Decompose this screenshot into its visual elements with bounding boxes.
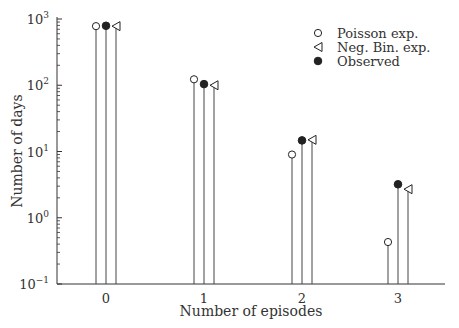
legend: Poisson exp.Neg. Bin. exp.Observed (314, 26, 430, 69)
y-tick-label: 101 (27, 143, 49, 160)
filled-circle-marker (298, 137, 306, 145)
legend-label: Observed (337, 54, 400, 69)
legend-label: Poisson exp. (337, 26, 418, 41)
y-tick-label: 10−1 (19, 275, 49, 292)
legend-label: Neg. Bin. exp. (337, 40, 430, 55)
open-circle-marker (314, 29, 321, 36)
x-tick-label: 3 (394, 291, 402, 306)
y-axis-label: Number of days (9, 94, 25, 207)
y-tick-label: 102 (27, 76, 49, 93)
open-circle-marker (190, 76, 197, 83)
open-circle-marker (92, 23, 99, 30)
x-axis-label: Number of episodes (180, 303, 323, 319)
open-circle-marker (384, 238, 391, 245)
triangle-left-marker (314, 43, 322, 52)
stem-chart: 10−11001011021030123 Poisson exp.Neg. Bi… (0, 0, 459, 328)
y-tick-label: 103 (27, 10, 50, 27)
y-tick-label: 100 (27, 209, 50, 226)
open-circle-marker (288, 151, 295, 158)
filled-circle-marker (200, 80, 208, 88)
filled-circle-marker (102, 22, 110, 30)
filled-circle-marker (314, 57, 322, 65)
x-tick-label: 0 (102, 291, 110, 306)
filled-circle-marker (394, 180, 402, 188)
